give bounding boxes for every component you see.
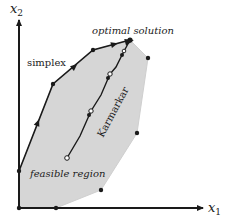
simplex-label: simplex bbox=[27, 57, 66, 68]
feasible-region-label: feasible region bbox=[29, 168, 105, 179]
optimal-solution-label: optimal solution bbox=[92, 25, 174, 36]
x-axis-label: x1 bbox=[208, 200, 221, 217]
y-axis-label: x2 bbox=[10, 1, 23, 18]
diagram-canvas: x2 x1 simplex optimal solution Karmarkar… bbox=[0, 0, 229, 219]
optimal-point bbox=[127, 37, 132, 42]
